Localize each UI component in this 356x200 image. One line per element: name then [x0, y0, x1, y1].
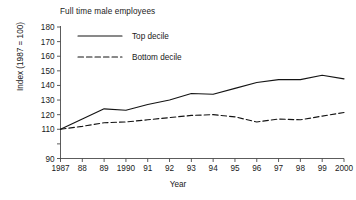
y-tick-label: 90 [45, 155, 55, 164]
x-tick-label: 94 [209, 164, 219, 173]
x-tick-label: 1990 [117, 164, 136, 173]
y-axis-ticks: 90110120130140150160170180 [41, 23, 61, 164]
y-tick-label: 130 [41, 96, 55, 105]
y-tick-label: 140 [41, 81, 55, 90]
legend-label-top-decile: Top decile [132, 32, 169, 41]
y-tick-label: 180 [41, 23, 55, 32]
plot-area: 90110120130140150160170180 1987888919909… [0, 0, 356, 200]
y-tick-label: 150 [41, 67, 55, 76]
x-tick-label: 89 [100, 164, 110, 173]
x-tick-label: 1987 [51, 164, 70, 173]
x-tick-label: 88 [78, 164, 88, 173]
x-tick-label: 97 [274, 164, 284, 173]
x-axis-ticks: 1987888919909192939495969798992000 [51, 159, 353, 174]
x-tick-label: 91 [143, 164, 153, 173]
x-tick-label: 96 [252, 164, 262, 173]
series-line-top-decile [61, 75, 345, 129]
y-tick-label: 110 [41, 125, 54, 134]
x-tick-label: 95 [230, 164, 240, 173]
x-tick-label: 98 [296, 164, 306, 173]
series-layer [61, 75, 345, 129]
chart-legend: Top decileBottom decile [78, 32, 182, 62]
x-tick-label: 2000 [335, 164, 354, 173]
legend-label-bottom-decile: Bottom decile [132, 53, 182, 62]
line-chart: Full time male employees Index (1987 = 1… [0, 0, 356, 200]
y-tick-label: 120 [41, 111, 55, 120]
x-tick-label: 92 [165, 164, 175, 173]
y-tick-label: 170 [41, 38, 55, 47]
x-tick-label: 93 [187, 164, 197, 173]
series-line-bottom-decile [61, 112, 345, 129]
y-tick-label: 160 [41, 52, 55, 61]
x-tick-label: 99 [318, 164, 328, 173]
